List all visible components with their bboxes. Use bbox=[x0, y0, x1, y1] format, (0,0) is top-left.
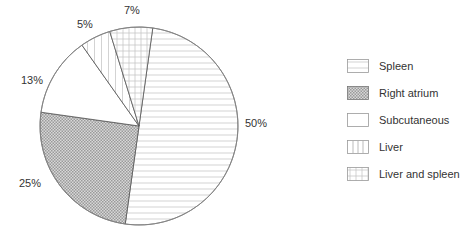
legend-label: Liver and spleen bbox=[379, 168, 460, 180]
grid-swatch-icon bbox=[347, 167, 369, 181]
legend-label: Liver bbox=[379, 141, 403, 153]
legend-item-liver: Liver bbox=[347, 133, 460, 160]
legend-item-right-atrium: Right atrium bbox=[347, 79, 460, 106]
pie bbox=[40, 27, 238, 225]
crosshatch-swatch-icon bbox=[347, 86, 369, 100]
legend-label: Right atrium bbox=[379, 87, 438, 99]
slice-label-liver: 5% bbox=[77, 18, 93, 30]
slice-label-subcutaneous: 13% bbox=[21, 74, 43, 86]
vertical-lines-swatch-icon bbox=[347, 140, 369, 154]
pie-slice-right-atrium bbox=[40, 112, 139, 224]
legend-label: Subcutaneous bbox=[379, 114, 449, 126]
slice-label-liver-and-spleen: 7% bbox=[124, 4, 140, 16]
legend-item-spleen: Spleen bbox=[347, 52, 460, 79]
legend-label: Spleen bbox=[379, 60, 413, 72]
horizontal-lines-swatch-icon bbox=[347, 59, 369, 73]
legend-item-liver-and-spleen: Liver and spleen bbox=[347, 160, 460, 187]
blank-swatch-icon bbox=[347, 113, 369, 127]
legend: Spleen Right atrium Subcutaneous Liver L… bbox=[347, 52, 460, 187]
slice-label-spleen: 50% bbox=[245, 117, 267, 129]
slice-label-right-atrium: 25% bbox=[19, 177, 41, 189]
legend-item-subcutaneous: Subcutaneous bbox=[347, 106, 460, 133]
